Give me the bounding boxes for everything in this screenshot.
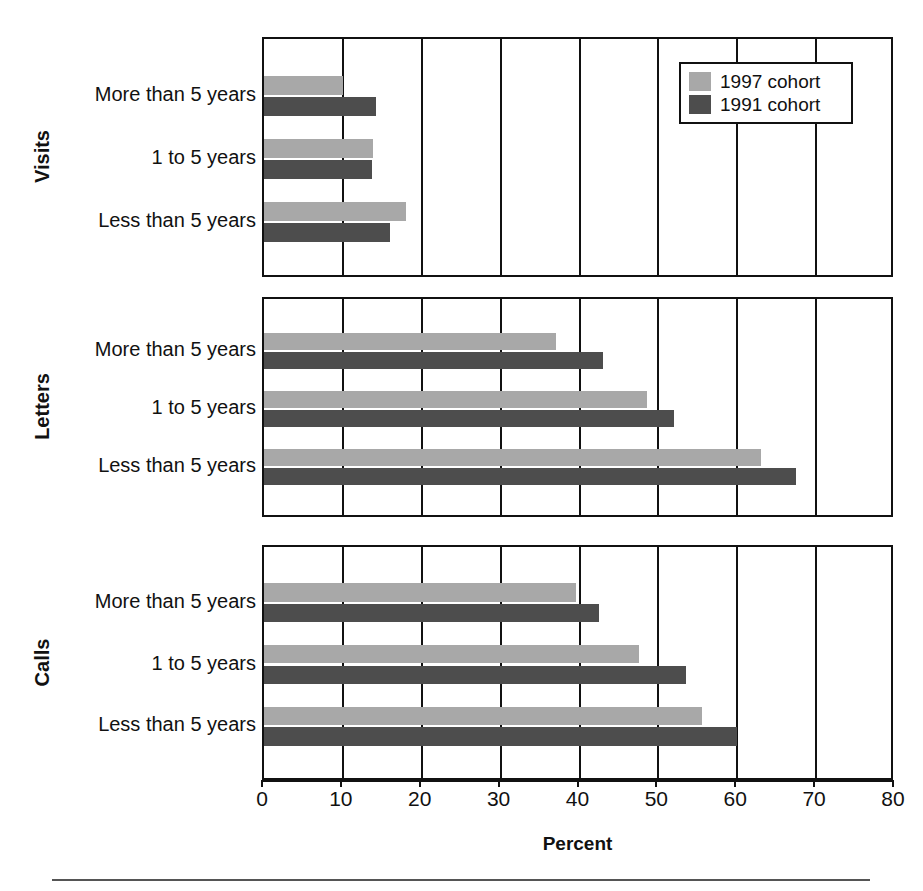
bar-visits-1-to-5-years-1991-cohort xyxy=(264,160,372,179)
category-label-more-than-5-years: More than 5 years xyxy=(95,590,256,612)
gridline-30 xyxy=(500,39,502,275)
bar-visits-less-than-5-years-1997-cohort xyxy=(264,202,406,221)
bar-calls-1-to-5-years-1997-cohort xyxy=(264,645,639,663)
panel-title-visits: Visits xyxy=(31,37,54,277)
x-tick-mark-20 xyxy=(419,780,421,787)
x-tick-label-80: 80 xyxy=(881,787,904,811)
bar-letters-1-to-5-years-1991-cohort xyxy=(264,410,674,427)
panel-title-calls: Calls xyxy=(31,545,54,780)
gridline-40 xyxy=(579,39,581,275)
panel-calls-plot-area xyxy=(262,545,893,780)
legend-label-1997-cohort: 1997 cohort xyxy=(720,72,820,91)
legend-entry-1997-cohort: 1997 cohort xyxy=(689,70,843,93)
bar-letters-more-than-5-years-1991-cohort xyxy=(264,352,603,369)
x-tick-mark-40 xyxy=(577,780,579,787)
gridline-20 xyxy=(421,39,423,275)
x-axis-tick-labels: 01020304050607080 xyxy=(0,787,923,813)
category-label-1-to-5-years: 1 to 5 years xyxy=(151,396,256,418)
category-label-1-to-5-years: 1 to 5 years xyxy=(151,652,256,674)
legend-label-1991-cohort: 1991 cohort xyxy=(720,95,820,114)
panel-letters-plot-area xyxy=(262,297,893,517)
footer-divider xyxy=(52,879,870,881)
x-tick-label-0: 0 xyxy=(256,787,268,811)
x-tick-label-70: 70 xyxy=(802,787,825,811)
x-tick-label-20: 20 xyxy=(408,787,431,811)
grouped-bar-chart-figure: Visits More than 5 years1 to 5 yearsLess… xyxy=(0,0,923,891)
x-tick-label-30: 30 xyxy=(487,787,510,811)
x-tick-mark-60 xyxy=(734,780,736,787)
bar-visits-more-than-5-years-1991-cohort xyxy=(264,97,376,116)
x-tick-label-40: 40 xyxy=(566,787,589,811)
category-label-1-to-5-years: 1 to 5 years xyxy=(151,146,256,168)
bar-calls-more-than-5-years-1991-cohort xyxy=(264,604,599,622)
bar-calls-more-than-5-years-1997-cohort xyxy=(264,583,576,601)
chart-legend: 1997 cohort 1991 cohort xyxy=(679,62,853,124)
bar-visits-1-to-5-years-1997-cohort xyxy=(264,139,373,158)
x-tick-mark-30 xyxy=(498,780,500,787)
gridline-50 xyxy=(657,39,659,275)
bar-calls-less-than-5-years-1997-cohort xyxy=(264,707,702,725)
light-gray-swatch-icon xyxy=(689,72,711,91)
bar-letters-less-than-5-years-1991-cohort xyxy=(264,468,796,485)
category-label-more-than-5-years: More than 5 years xyxy=(95,83,256,105)
bar-letters-less-than-5-years-1997-cohort xyxy=(264,449,761,466)
category-label-less-than-5-years: Less than 5 years xyxy=(98,454,256,476)
x-tick-label-60: 60 xyxy=(724,787,747,811)
x-tick-mark-0 xyxy=(261,780,263,787)
dark-gray-swatch-icon xyxy=(689,95,711,114)
x-tick-label-50: 50 xyxy=(645,787,668,811)
bar-letters-more-than-5-years-1997-cohort xyxy=(264,333,556,350)
x-tick-mark-80 xyxy=(892,780,894,787)
category-label-less-than-5-years: Less than 5 years xyxy=(98,209,256,231)
category-label-more-than-5-years: More than 5 years xyxy=(95,338,256,360)
x-tick-mark-10 xyxy=(340,780,342,787)
x-tick-label-10: 10 xyxy=(329,787,352,811)
bar-letters-1-to-5-years-1997-cohort xyxy=(264,391,647,408)
bar-calls-less-than-5-years-1991-cohort xyxy=(264,727,737,745)
x-tick-mark-70 xyxy=(813,780,815,787)
category-label-less-than-5-years: Less than 5 years xyxy=(98,713,256,735)
gridline-70 xyxy=(815,299,817,515)
legend-entry-1991-cohort: 1991 cohort xyxy=(689,93,843,116)
bar-calls-1-to-5-years-1991-cohort xyxy=(264,666,686,684)
x-tick-mark-50 xyxy=(655,780,657,787)
gridline-70 xyxy=(815,547,817,778)
bar-visits-more-than-5-years-1997-cohort xyxy=(264,76,343,95)
bar-visits-less-than-5-years-1991-cohort xyxy=(264,223,390,242)
x-axis-title: Percent xyxy=(262,833,893,855)
panel-title-letters: Letters xyxy=(31,297,54,517)
